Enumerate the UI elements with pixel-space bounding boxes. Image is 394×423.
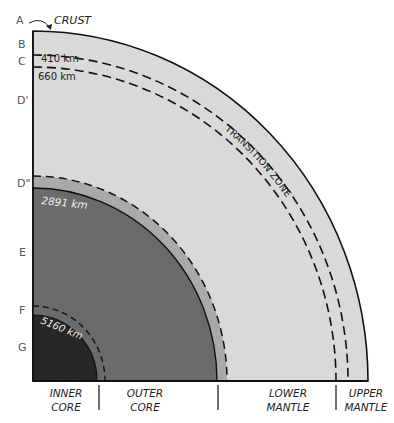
- earth-cross-section: TRANSITION ZONE 410 km 660 km 2891 km 51…: [0, 0, 394, 423]
- label-outer-core: OUTERCORE: [118, 386, 172, 414]
- letter-f: F: [19, 304, 25, 317]
- letter-d-prime: D': [17, 94, 29, 107]
- depth-660: 660 km: [38, 71, 76, 82]
- depth-410: 410 km: [41, 53, 79, 64]
- letter-c: C: [18, 55, 26, 68]
- letter-d-double-prime: D": [17, 177, 31, 190]
- crust-arrow-icon: [29, 20, 50, 28]
- letter-b: B: [18, 38, 26, 51]
- crust-label: CRUST: [54, 14, 91, 27]
- letter-a: A: [16, 14, 24, 27]
- letter-e: E: [19, 246, 26, 259]
- letter-g: G: [18, 341, 27, 354]
- label-upper-mantle: UPPERMANTLE: [338, 386, 394, 414]
- label-inner-core: INNERCORE: [40, 386, 92, 414]
- label-lower-mantle: LOWERMANTLE: [258, 386, 318, 414]
